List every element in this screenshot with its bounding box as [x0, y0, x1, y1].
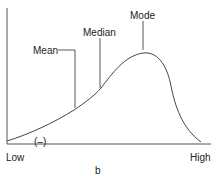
skewed-distribution-chart: Mean Median Mode (–) Low High b	[0, 0, 217, 176]
distribution-curve	[7, 53, 201, 142]
x-axis-high-label: High	[190, 152, 211, 163]
panel-label: b	[95, 165, 101, 176]
median-label: Median	[83, 27, 116, 38]
mode-label: Mode	[130, 10, 155, 21]
mean-label: Mean	[33, 45, 58, 56]
x-axis-low-label: Low	[6, 152, 25, 163]
skew-sign-label: (–)	[34, 136, 46, 147]
